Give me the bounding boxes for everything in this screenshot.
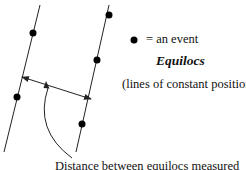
event-dot bbox=[94, 57, 101, 64]
event-dot bbox=[106, 12, 113, 19]
event-dot bbox=[14, 94, 21, 101]
distance-arrow bbox=[22, 77, 91, 99]
legend-event-dot-icon bbox=[131, 37, 138, 44]
legend-title: Equilocs bbox=[156, 54, 205, 68]
caption: Distance between equilocs measured bbox=[55, 160, 239, 170]
event-dot bbox=[30, 30, 37, 37]
legend-event-label: = an event bbox=[146, 33, 198, 46]
pointer-curve bbox=[44, 88, 72, 158]
pointer-curve-arrowhead-icon bbox=[44, 81, 50, 89]
equiloc-right-line bbox=[76, 5, 109, 152]
equiloc-left-line bbox=[4, 5, 40, 152]
legend-subtitle: (lines of constant position) bbox=[122, 78, 246, 91]
event-dot bbox=[79, 121, 86, 128]
